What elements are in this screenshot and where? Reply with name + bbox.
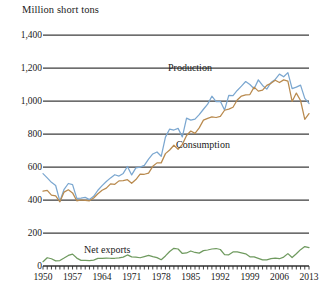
series-label-production: Production xyxy=(168,62,212,73)
x-axis-tick-label: 1999 xyxy=(240,272,259,282)
series-label-net-exports: Net exports xyxy=(84,244,130,255)
x-axis-tick-label: 1957 xyxy=(63,272,82,282)
x-axis-tick-label: 2013 xyxy=(300,272,319,282)
x-axis-tick-label: 1971 xyxy=(122,272,141,282)
x-axis-tick-label: 1985 xyxy=(181,272,200,282)
x-axis-tick-label: 1964 xyxy=(93,272,112,282)
x-axis-tick-label: 1978 xyxy=(152,272,171,282)
x-axis-tick-label: 1992 xyxy=(211,272,230,282)
series-line-production xyxy=(43,73,309,202)
plot-area xyxy=(0,0,324,306)
x-axis-tick-label: 1950 xyxy=(34,272,53,282)
x-axis-tick-label: 2006 xyxy=(270,272,289,282)
series-label-consumption: Consumption xyxy=(176,139,230,150)
coal-chart: Million short tons 02004006008001,0001,2… xyxy=(0,0,324,306)
series-line-net-exports xyxy=(43,247,309,262)
